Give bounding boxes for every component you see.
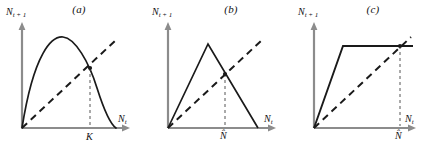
recruitment-curve xyxy=(22,37,116,128)
panel-b-plot xyxy=(146,0,292,156)
panel-c-y-axis-label: Nt + 1 xyxy=(298,6,318,19)
panel-a-x-axis-label: Nt xyxy=(118,113,127,126)
panel-c-plot xyxy=(292,0,438,156)
panel-c-x-axis-label: Nt xyxy=(405,113,414,126)
panel-c-x-axis-symbol: N xyxy=(405,113,412,124)
panel-b-equilibrium-tick-label: N̂ xyxy=(220,130,227,141)
panel-a-x-axis-subscript: t xyxy=(125,118,127,126)
recruitment-curve xyxy=(314,46,413,128)
panel-b-y-axis-symbol: N xyxy=(152,6,159,17)
panel-b-x-axis-label: Nt xyxy=(264,113,273,126)
panel-c: (c) Nt + 1 Nt N̂ xyxy=(292,0,438,156)
panel-a-y-axis-symbol: N xyxy=(6,6,13,17)
y-axis-arrowhead xyxy=(19,22,26,30)
equilibrium-point-marker xyxy=(223,72,227,76)
panel-c-y-axis-subscript: t + 1 xyxy=(305,11,319,19)
panel-b-x-axis-subscript: t xyxy=(271,118,273,126)
replacement-line-dashed xyxy=(314,37,411,128)
panel-b-y-axis-subscript: t + 1 xyxy=(159,11,173,19)
y-axis-arrowhead xyxy=(311,22,318,30)
replacement-line-dashed xyxy=(168,39,263,128)
panel-a-equilibrium-tick-label: K xyxy=(86,131,93,142)
y-axis-arrowhead xyxy=(165,22,172,30)
panel-a-x-axis-symbol: N xyxy=(118,113,125,124)
panel-b-title: (b) xyxy=(158,3,304,15)
panel-a-y-axis-label: Nt + 1 xyxy=(6,6,26,19)
panel-a-plot xyxy=(0,0,146,156)
panel-c-x-axis-subscript: t xyxy=(412,118,414,126)
equilibrium-point-marker xyxy=(398,44,402,48)
panel-b-y-axis-label: Nt + 1 xyxy=(152,6,172,19)
replacement-line-dashed xyxy=(22,39,117,128)
equilibrium-point-marker xyxy=(88,66,92,70)
panel-b: (b) Nt + 1 Nt N̂ xyxy=(146,0,292,156)
panel-a-y-axis-subscript: t + 1 xyxy=(13,11,27,19)
recruitment-curves-figure: (a) Nt + 1 Nt K (b) Nt + 1 Nt N̂ xyxy=(0,0,438,156)
panel-c-equilibrium-tick-label: N̂ xyxy=(395,130,402,141)
panel-c-title: (c) xyxy=(300,3,438,15)
panel-a-title: (a) xyxy=(6,3,152,15)
panel-a: (a) Nt + 1 Nt K xyxy=(0,0,146,156)
panel-c-y-axis-symbol: N xyxy=(298,6,305,17)
panel-b-x-axis-symbol: N xyxy=(264,113,271,124)
